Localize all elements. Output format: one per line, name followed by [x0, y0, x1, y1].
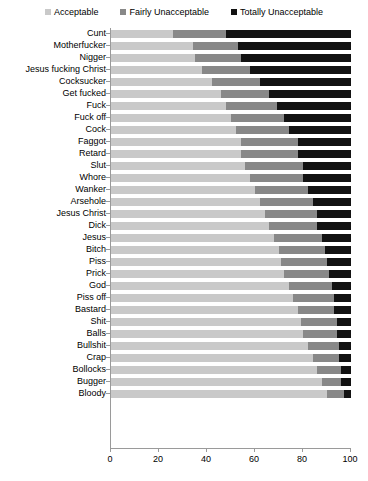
bar-row[interactable]: Jesus fucking Christ — [0, 64, 368, 76]
bar-row[interactable]: Jesus Christ — [0, 208, 368, 220]
stacked-bar[interactable] — [111, 294, 351, 302]
bar-row[interactable]: Dick — [0, 220, 368, 232]
bar-segment — [289, 126, 351, 134]
legend-swatch-icon — [231, 9, 237, 15]
bar-row[interactable]: Crap — [0, 352, 368, 364]
bar-row[interactable]: Faggot — [0, 136, 368, 148]
y-axis-tick — [106, 153, 110, 154]
category-label: Fuck off — [74, 112, 106, 124]
stacked-bar[interactable] — [111, 162, 351, 170]
bar-row[interactable]: Fuck off — [0, 112, 368, 124]
bar-row[interactable]: Bitch — [0, 244, 368, 256]
stacked-bar[interactable] — [111, 54, 351, 62]
stacked-bar[interactable] — [111, 210, 351, 218]
stacked-bar[interactable] — [111, 318, 351, 326]
legend-entry[interactable]: Acceptable — [45, 8, 99, 17]
stacked-bar[interactable] — [111, 366, 351, 374]
bar-row[interactable]: Jesus — [0, 232, 368, 244]
stacked-bar[interactable] — [111, 354, 351, 362]
y-axis-tick — [106, 261, 110, 262]
bar-row[interactable]: Bloody — [0, 388, 368, 400]
legend-entry[interactable]: Fairly Unacceptable — [120, 8, 209, 17]
bar-segment — [111, 354, 313, 362]
bar-row[interactable]: Balls — [0, 328, 368, 340]
category-label: Bastard — [75, 304, 106, 316]
bar-row[interactable]: Piss off — [0, 292, 368, 304]
bar-segment — [269, 90, 351, 98]
stacked-bar[interactable] — [111, 42, 351, 50]
stacked-bar[interactable] — [111, 30, 351, 38]
category-label: Nigger — [79, 52, 106, 64]
stacked-bar[interactable] — [111, 78, 351, 86]
bar-segment — [202, 66, 250, 74]
stacked-bar[interactable] — [111, 330, 351, 338]
stacked-bar[interactable] — [111, 390, 351, 398]
stacked-bar[interactable] — [111, 198, 351, 206]
bar-row[interactable]: Get fucked — [0, 88, 368, 100]
x-axis: 020406080100 — [110, 449, 351, 471]
bar-row[interactable]: Motherfucker — [0, 40, 368, 52]
bar-segment — [111, 90, 221, 98]
bar-segment — [250, 174, 303, 182]
bar-row[interactable]: Bullshit — [0, 340, 368, 352]
bar-segment — [173, 30, 226, 38]
bar-segment — [241, 150, 299, 158]
stacked-bar[interactable] — [111, 102, 351, 110]
bar-segment — [111, 294, 293, 302]
bar-row[interactable]: Whore — [0, 172, 368, 184]
bar-segment — [279, 246, 325, 254]
stacked-bar[interactable] — [111, 150, 351, 158]
legend-entry[interactable]: Totally Unacceptable — [231, 8, 323, 17]
bar-row[interactable]: God — [0, 280, 368, 292]
stacked-bar[interactable] — [111, 378, 351, 386]
stacked-bar[interactable] — [111, 306, 351, 314]
bar-row[interactable]: Prick — [0, 268, 368, 280]
bar-row[interactable]: Cocksucker — [0, 76, 368, 88]
bar-segment — [313, 354, 339, 362]
bar-row[interactable]: Cunt — [0, 28, 368, 40]
bar-row[interactable]: Bastard — [0, 304, 368, 316]
x-axis-tick-label: 40 — [201, 454, 211, 464]
stacked-bar[interactable] — [111, 246, 351, 254]
stacked-bar[interactable] — [111, 342, 351, 350]
bar-row[interactable]: Bugger — [0, 376, 368, 388]
bar-segment — [334, 306, 351, 314]
stacked-bar[interactable] — [111, 234, 351, 242]
stacked-bar[interactable] — [111, 90, 351, 98]
stacked-bar[interactable] — [111, 126, 351, 134]
category-label: Arsehole — [70, 196, 106, 208]
bar-segment — [289, 282, 332, 290]
bar-segment — [111, 366, 317, 374]
stacked-bar[interactable] — [111, 258, 351, 266]
bar-segment — [231, 114, 284, 122]
bar-row[interactable]: Piss — [0, 256, 368, 268]
bar-row[interactable]: Slut — [0, 160, 368, 172]
category-label: Jesus fucking Christ — [25, 64, 106, 76]
stacked-bar[interactable] — [111, 138, 351, 146]
bar-row[interactable]: Cock — [0, 124, 368, 136]
bar-segment — [195, 54, 241, 62]
stacked-bar[interactable] — [111, 114, 351, 122]
bar-row[interactable]: Bollocks — [0, 364, 368, 376]
stacked-bar[interactable] — [111, 174, 351, 182]
bar-row[interactable]: Fuck — [0, 100, 368, 112]
bar-row[interactable]: Arsehole — [0, 196, 368, 208]
bar-segment — [265, 210, 318, 218]
category-label: Cock — [85, 124, 106, 136]
stacked-bar[interactable] — [111, 222, 351, 230]
bar-segment — [313, 198, 351, 206]
bar-segment — [111, 174, 250, 182]
stacked-bar[interactable] — [111, 270, 351, 278]
bar-row[interactable]: Nigger — [0, 52, 368, 64]
bar-segment — [317, 210, 351, 218]
legend-label: Totally Unacceptable — [240, 8, 323, 17]
bar-row[interactable]: Wanker — [0, 184, 368, 196]
stacked-bar[interactable] — [111, 282, 351, 290]
x-axis-tick — [206, 449, 207, 452]
bar-row[interactable]: Shit — [0, 316, 368, 328]
bar-segment — [111, 390, 327, 398]
stacked-bar[interactable] — [111, 186, 351, 194]
bar-row[interactable]: Retard — [0, 148, 368, 160]
stacked-bar[interactable] — [111, 66, 351, 74]
y-axis-tick — [106, 45, 110, 46]
